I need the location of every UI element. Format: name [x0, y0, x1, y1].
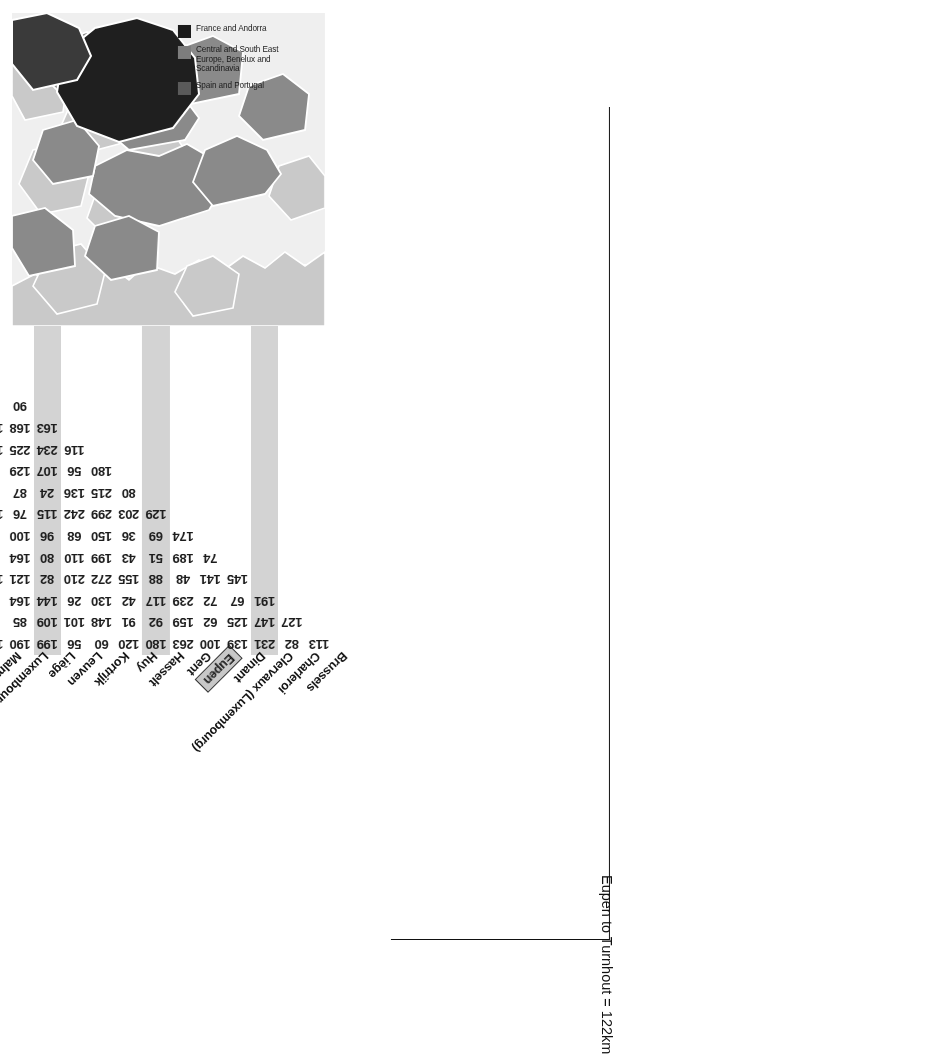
table-row: 138371276586 [0, 310, 360, 332]
matrix-cell: 180 [88, 461, 115, 483]
legend-item: Spain and Portugal [178, 81, 290, 95]
matrix-cell: 51 [143, 547, 170, 569]
legend-item: Central and South East Europe, Benelux a… [178, 45, 290, 74]
matrix-cell: 191 [251, 590, 278, 612]
matrix-cell: 136 [61, 482, 88, 504]
legend-swatch [178, 46, 191, 59]
matrix-cell: 97 [0, 547, 7, 569]
matrix-cell: 120 [0, 569, 7, 591]
matrix-cell: 234 [34, 439, 61, 461]
table-row: 72140677248160106151 [0, 374, 360, 396]
matrix-cell: 56 [61, 633, 88, 655]
matrix-cell: 116 [61, 439, 88, 461]
table-row: 17913762120146175177 [0, 353, 360, 375]
table-row: 1138223113910026318012060561991901202942… [0, 633, 360, 655]
matrix-cell: 139 [224, 633, 251, 655]
map-legend: France and AndorraCentral and South East… [178, 24, 290, 95]
matrix-cell: 82 [278, 633, 305, 655]
matrix-cell: 26 [61, 590, 88, 612]
matrix-cell: 48 [170, 569, 197, 591]
matrix-cell: 91 [115, 612, 142, 634]
matrix-cell: 299 [88, 504, 115, 526]
table-row: 129203299242115761446235146291472974 [0, 504, 360, 526]
matrix-cell: 199 [88, 547, 115, 569]
table-row: 176167 [0, 245, 360, 267]
matrix-cell: 120 [115, 633, 142, 655]
matrix-cell: 80 [34, 547, 61, 569]
matrix-cell: 62 [0, 482, 7, 504]
matrix-cell: 144 [34, 590, 61, 612]
matrix-cell: 96 [34, 525, 61, 547]
table-row: 163168102268226130242166272263 [0, 417, 360, 439]
matrix-cell: 100 [197, 633, 224, 655]
matrix-cell: 100 [7, 525, 34, 547]
matrix-cell: 60 [88, 633, 115, 655]
matrix-cell: 88 [143, 569, 170, 591]
matrix-cell: 120 [0, 633, 7, 655]
matrix-cell: 76 [7, 504, 34, 526]
matrix-cell: 168 [7, 417, 34, 439]
legend-label: France and Andorra [196, 24, 267, 34]
table-row: 1916772239117421302614416499249207155211… [0, 590, 360, 612]
matrix-cell: 92 [143, 612, 170, 634]
matrix-cell: 42 [115, 590, 142, 612]
matrix-cell: 141 [197, 569, 224, 591]
matrix-cell: 80 [115, 482, 142, 504]
matrix-cell: 81 [0, 396, 7, 418]
legend-swatch [178, 82, 191, 95]
matrix-cell: 231 [251, 633, 278, 655]
matrix-cell: 24 [34, 482, 61, 504]
matrix-cell: 199 [34, 633, 61, 655]
matrix-cell: 117 [143, 590, 170, 612]
matrix-cell: 56 [61, 461, 88, 483]
table-row: 174693615068961003419816591148171205197 [0, 525, 360, 547]
matrix-cell: 74 [197, 547, 224, 569]
distance-matrix: 1138223113910026318012060561991901202942… [0, 223, 360, 655]
legend-item: France and Andorra [178, 24, 290, 38]
matrix-cell: 102 [0, 417, 7, 439]
matrix-cell: 82 [34, 569, 61, 591]
matrix-cell: 163 [34, 417, 61, 439]
matrix-cell: 72 [197, 590, 224, 612]
matrix-cell: 99 [0, 590, 7, 612]
table-row: 116234225155329310177270304328331 [0, 439, 360, 461]
matrix-cell: 107 [34, 461, 61, 483]
matrix-cell: 155 [0, 439, 7, 461]
matrix-cell: 115 [34, 504, 61, 526]
matrix-cell: 109 [34, 612, 61, 634]
matrix-cell: 43 [115, 547, 142, 569]
matrix-cell: 147 [251, 612, 278, 634]
matrix-cell: 110 [61, 547, 88, 569]
matrix-cell: 69 [143, 525, 170, 547]
matrix-cell: 34 [0, 525, 7, 547]
matrix-cell: 144 [0, 504, 7, 526]
table-row: 7418951431991108016497202197156211552171… [0, 547, 360, 569]
matrix-cell: 150 [88, 525, 115, 547]
matrix-cell: 101 [61, 612, 88, 634]
matrix-cell: 87 [7, 482, 34, 504]
matrix-cell: 72 [0, 374, 7, 396]
matrix-cell: 215 [88, 482, 115, 504]
matrix-cell: 90 [7, 396, 34, 418]
table-row: 1271471256215992911481011098528205164301… [0, 612, 360, 634]
table-row: 119185175195 [0, 288, 360, 310]
matrix-cell: 130 [88, 590, 115, 612]
matrix-cell: 272 [88, 569, 115, 591]
matrix-cell: 145 [224, 569, 251, 591]
matrix-cell: 62 [0, 461, 7, 483]
callout-leader-line [391, 107, 610, 940]
matrix-cell: 225 [7, 439, 34, 461]
matrix-cell: 174 [170, 525, 197, 547]
matrix-cell: 210 [61, 569, 88, 591]
table-row: 17458113 [0, 266, 360, 288]
matrix-cell: 242 [61, 504, 88, 526]
legend-swatch [178, 25, 191, 38]
table-row: 68 [0, 223, 360, 245]
matrix-cell: 28 [0, 612, 7, 634]
matrix-cell: 36 [115, 525, 142, 547]
matrix-cell: 121 [7, 569, 34, 591]
matrix-cell: 164 [7, 590, 34, 612]
matrix-cell: 68 [61, 525, 88, 547]
matrix-cell: 189 [170, 547, 197, 569]
legend-label: Spain and Portugal [196, 81, 264, 91]
